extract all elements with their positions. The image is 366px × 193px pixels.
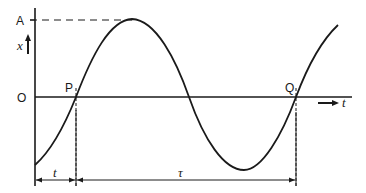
point-p-label: P: [65, 81, 73, 95]
amplitude-label: A: [16, 14, 24, 28]
arrowhead-left-icon: [77, 178, 83, 183]
point-q-label: Q: [285, 81, 294, 95]
arrowhead-right-icon: [69, 178, 75, 183]
arrowhead-right-icon: [332, 100, 339, 106]
interval-t-label: t: [53, 165, 57, 180]
interval-tau-label: τ: [178, 165, 184, 180]
origin-label: O: [17, 91, 26, 105]
arrowhead-right-icon: [289, 178, 295, 183]
arrowhead-left-icon: [36, 178, 42, 183]
y-axis-label: x: [16, 38, 23, 53]
arrowhead-up-icon: [25, 34, 31, 41]
oscillation-diagram: A O x t P Q t τ: [0, 0, 366, 193]
x-axis-label: t: [342, 95, 346, 110]
